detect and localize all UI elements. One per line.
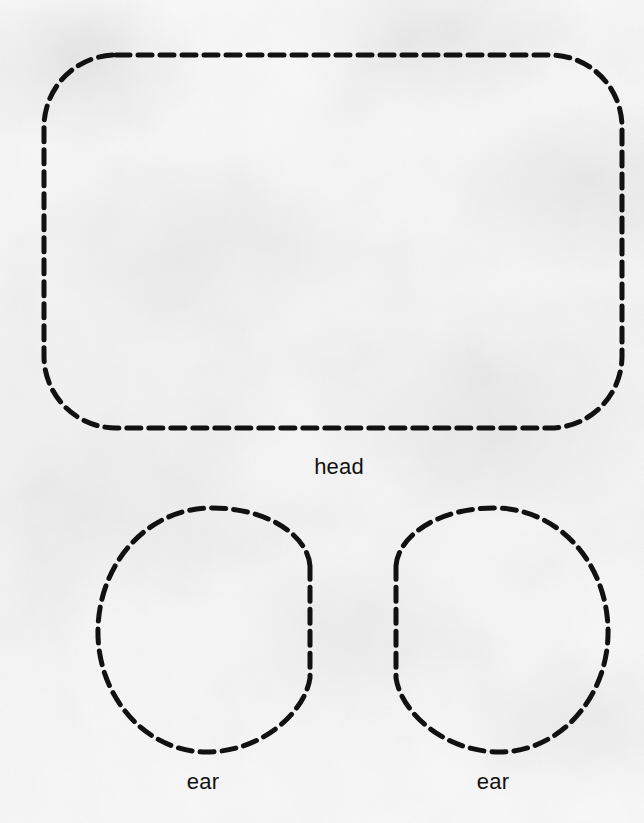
pattern-piece-ear-left[interactable] [98, 508, 310, 752]
piece-label-head: head [314, 456, 364, 478]
pattern-pieces-layer [0, 0, 644, 823]
piece-label-ear-right: ear [477, 771, 509, 793]
ear-right-outline-dashed-path[interactable] [396, 508, 608, 752]
pattern-piece-ear-right[interactable] [396, 508, 608, 752]
pattern-piece-head[interactable] [44, 55, 622, 428]
pattern-sheet: head ear ear [0, 0, 644, 823]
head-outline-dashed-path[interactable] [44, 55, 622, 428]
ear-left-outline-dashed-path[interactable] [98, 508, 310, 752]
piece-label-ear-left: ear [187, 771, 219, 793]
